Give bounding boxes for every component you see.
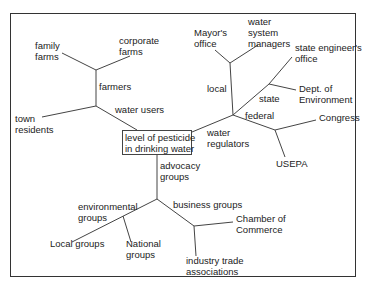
node-state: state	[259, 93, 280, 104]
node-family-farms: family farms	[35, 40, 60, 62]
node-water-users: water users	[115, 104, 164, 115]
node-usepa: USEPA	[276, 158, 308, 169]
node-local: local	[207, 83, 227, 94]
node-corporate-farms: corporate farms	[119, 35, 159, 57]
node-federal: federal	[245, 110, 274, 121]
node-state-engineers-office: state engineer's office	[295, 42, 362, 64]
root-node: level of pesticide in drinking water	[122, 130, 192, 155]
node-national-groups: National groups	[126, 238, 161, 260]
node-dept-environment: Dept. of Environment	[299, 83, 352, 105]
node-local-groups: Local groups	[50, 238, 104, 249]
node-water-system-managers: water system managers	[248, 16, 290, 49]
node-chamber-of-commerce: Chamber of Commerce	[236, 213, 286, 235]
node-congress: Congress	[319, 112, 360, 123]
node-water-regulators: water regulators	[207, 127, 249, 149]
node-environmental-groups: environmental groups	[78, 201, 138, 223]
node-business-groups: business groups	[173, 199, 242, 210]
node-town-residents: town residents	[15, 113, 54, 135]
node-farmers: farmers	[99, 81, 131, 92]
node-mayors-office: Mayor's office	[194, 27, 227, 49]
node-advocacy-groups: advocacy groups	[160, 160, 200, 182]
node-industry-trade-associations: industry trade associations	[186, 255, 244, 277]
